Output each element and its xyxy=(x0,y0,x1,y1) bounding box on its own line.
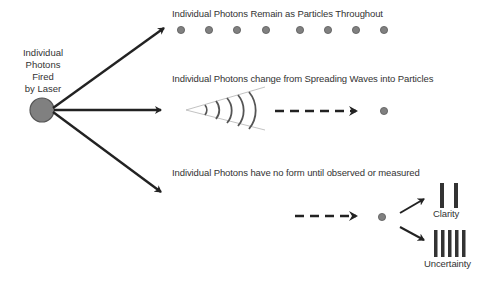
particle xyxy=(262,26,269,33)
particle-row xyxy=(177,26,387,33)
uncertainty-bars-icon xyxy=(434,230,466,257)
source-label-line: Fired xyxy=(4,71,82,83)
source-label-line: by Laser xyxy=(4,83,82,95)
particle xyxy=(205,26,212,33)
arrow-to-clarity xyxy=(400,199,424,213)
particle xyxy=(177,26,184,33)
outcome-label-clarity: Clarity xyxy=(433,208,459,220)
path-title-formless: Individual Photons have no form until ob… xyxy=(172,167,420,179)
particle xyxy=(233,26,240,33)
arrow-to-uncertainty xyxy=(400,227,424,240)
source-label: Individual Photons Fired by Laser xyxy=(4,47,82,95)
path-title-particles: Individual Photons Remain as Particles T… xyxy=(172,8,383,20)
laser-source-photon xyxy=(30,98,54,122)
clarity-bars-icon xyxy=(440,183,458,208)
source-label-line: Photons xyxy=(4,59,82,71)
particle xyxy=(324,26,331,33)
path-title-waves: Individual Photons change from Spreading… xyxy=(172,73,433,85)
particle xyxy=(296,26,303,33)
outcome-label-uncertainty: Uncertainty xyxy=(424,258,471,270)
measured-particle xyxy=(378,213,385,220)
source-label-line: Individual xyxy=(4,47,82,59)
arrow-to-formless xyxy=(53,112,161,192)
particle xyxy=(352,26,359,33)
spreading-wave-icon xyxy=(186,87,265,130)
photon-diagram xyxy=(0,0,494,282)
collapsed-particle xyxy=(380,107,387,114)
particle xyxy=(380,26,387,33)
